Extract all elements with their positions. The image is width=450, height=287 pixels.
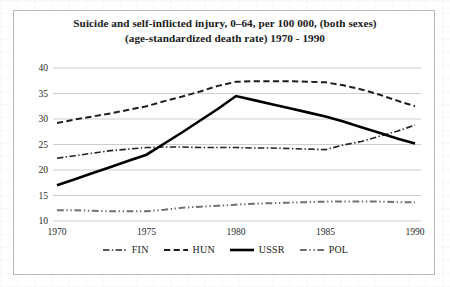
legend-label-fin: FIN: [132, 245, 149, 255]
gridlines: [53, 68, 421, 221]
line-chart-plot: 40353025201510 19701975198019851990: [0, 0, 450, 287]
x-tick-1980: 1980: [226, 226, 245, 237]
legend-swatch-fin: [102, 245, 128, 255]
x-tick-1985: 1985: [316, 226, 335, 237]
legend-swatch-ussr: [229, 245, 255, 255]
x-tick-1990: 1990: [405, 226, 424, 237]
legend-label-ussr: USSR: [259, 245, 285, 255]
chart-legend: FINHUNUSSRPOL: [0, 245, 450, 255]
legend-swatch-pol: [299, 245, 325, 255]
y-tick-10: 10: [38, 215, 48, 226]
legend-item-pol[interactable]: POL: [299, 245, 349, 255]
legend-item-ussr[interactable]: USSR: [229, 245, 285, 255]
y-tick-30: 30: [38, 113, 48, 124]
legend-item-fin[interactable]: FIN: [102, 245, 149, 255]
series-line-hun: [57, 81, 415, 123]
y-tick-25: 25: [38, 139, 48, 150]
series-line-fin: [57, 125, 415, 158]
y-tick-20: 20: [38, 164, 48, 175]
y-tick-40: 40: [38, 62, 48, 73]
y-tick-35: 35: [38, 88, 48, 99]
y-tick-15: 15: [38, 190, 48, 201]
x-tick-1975: 1975: [137, 226, 156, 237]
legend-item-hun[interactable]: HUN: [163, 245, 215, 255]
x-tick-1970: 1970: [47, 226, 66, 237]
legend-swatch-hun: [163, 245, 189, 255]
series-line-pol: [57, 202, 415, 212]
y-axis-tick-labels: 40353025201510: [38, 62, 48, 226]
legend-label-hun: HUN: [193, 245, 215, 255]
data-series-lines: [57, 81, 415, 211]
x-axis-tick-labels: 19701975198019851990: [47, 226, 424, 237]
legend-label-pol: POL: [329, 245, 349, 255]
